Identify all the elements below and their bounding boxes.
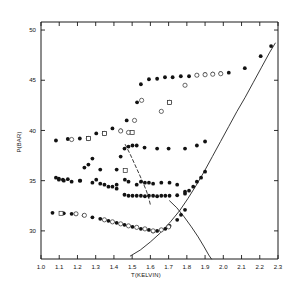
x-tick-label: 1.2 bbox=[73, 263, 82, 270]
x-tick-label: 1.8 bbox=[183, 263, 192, 270]
data-point-open bbox=[110, 220, 114, 224]
x-tick-label: 1.7 bbox=[164, 263, 173, 270]
data-point-filled bbox=[115, 187, 119, 191]
data-point-filled bbox=[135, 194, 139, 198]
x-tick-label: 2.0 bbox=[219, 263, 228, 270]
data-point-filled bbox=[259, 54, 263, 58]
data-point-filled bbox=[98, 182, 102, 186]
data-point-square bbox=[86, 136, 90, 140]
data-point-filled bbox=[135, 183, 139, 187]
data-point-filled bbox=[147, 181, 151, 185]
data-point-filled bbox=[82, 166, 86, 170]
data-point-filled bbox=[187, 189, 191, 193]
data-point-filled bbox=[168, 194, 172, 198]
data-point-filled bbox=[269, 44, 273, 48]
y-tick-label: 50 bbox=[29, 26, 36, 33]
x-tick-label: 1.9 bbox=[201, 263, 210, 270]
data-point-filled bbox=[183, 208, 187, 212]
data-point-filled bbox=[183, 192, 187, 196]
data-point-filled bbox=[203, 170, 207, 174]
data-point-filled bbox=[127, 145, 131, 149]
data-point-filled bbox=[131, 194, 135, 198]
data-point-filled bbox=[91, 157, 95, 161]
data-point-open bbox=[102, 218, 106, 222]
x-tick-label: 1.1 bbox=[55, 263, 64, 270]
data-point-filled bbox=[51, 211, 55, 215]
data-point-filled bbox=[159, 181, 163, 185]
data-point-square bbox=[59, 211, 63, 215]
data-point-filled bbox=[179, 213, 183, 217]
plot-figure: 1.01.11.21.31.41.51.61.71.81.92.02.12.22… bbox=[0, 0, 292, 290]
y-axis-title: P(BAR) bbox=[16, 131, 22, 152]
data-point-open bbox=[167, 225, 171, 229]
data-point-open bbox=[219, 72, 223, 76]
data-point-filled bbox=[94, 132, 98, 136]
data-point-filled bbox=[103, 183, 107, 187]
data-point-open bbox=[151, 229, 155, 233]
data-point-filled bbox=[94, 178, 98, 182]
data-point-filled bbox=[155, 77, 159, 81]
x-tick-label: 1.5 bbox=[128, 263, 137, 270]
data-point-filled bbox=[203, 140, 207, 144]
data-point-filled bbox=[139, 194, 143, 198]
data-point-filled bbox=[62, 179, 66, 183]
data-point-square bbox=[168, 100, 172, 104]
data-point-filled bbox=[66, 137, 70, 141]
data-point-filled bbox=[123, 147, 127, 151]
data-point-open bbox=[70, 137, 74, 141]
data-point-filled bbox=[199, 176, 203, 180]
data-point-filled bbox=[98, 217, 102, 221]
data-point-filled bbox=[123, 193, 127, 197]
data-point-filled bbox=[143, 181, 147, 185]
data-point-filled bbox=[175, 193, 179, 197]
data-point-filled bbox=[123, 223, 127, 227]
data-point-open bbox=[74, 212, 78, 216]
data-point-filled bbox=[195, 144, 199, 148]
data-point-filled bbox=[139, 227, 143, 231]
data-point-filled bbox=[147, 77, 151, 81]
data-point-filled bbox=[163, 194, 167, 198]
data-point-open bbox=[126, 224, 130, 228]
data-point-open bbox=[159, 109, 163, 113]
data-point-filled bbox=[147, 194, 151, 198]
data-point-filled bbox=[163, 75, 167, 79]
data-point-filled bbox=[78, 137, 82, 141]
x-tick-label: 2.1 bbox=[237, 263, 246, 270]
x-tick-label: 2.2 bbox=[256, 263, 265, 270]
figure-background bbox=[0, 0, 292, 290]
data-point-filled bbox=[125, 119, 129, 123]
data-point-open bbox=[135, 225, 139, 229]
data-point-filled bbox=[151, 194, 155, 198]
y-tick-label: 40 bbox=[29, 127, 36, 134]
data-point-filled bbox=[131, 144, 135, 148]
x-tick-label: 2.3 bbox=[274, 263, 283, 270]
data-point-filled bbox=[183, 147, 187, 151]
data-point-filled bbox=[91, 181, 95, 185]
data-point-open bbox=[82, 213, 86, 217]
data-point-filled bbox=[91, 215, 95, 219]
data-point-filled bbox=[127, 194, 131, 198]
data-point-filled bbox=[123, 178, 127, 182]
data-point-square bbox=[123, 169, 127, 173]
data-point-filled bbox=[107, 219, 111, 223]
data-point-filled bbox=[111, 185, 115, 189]
data-point-filled bbox=[171, 75, 175, 79]
data-point-filled bbox=[227, 71, 231, 75]
data-point-filled bbox=[191, 185, 195, 189]
data-point-filled bbox=[175, 218, 179, 222]
data-point-filled bbox=[155, 229, 159, 233]
data-point-filled bbox=[155, 194, 159, 198]
data-point-square bbox=[130, 130, 134, 134]
x-tick-label: 1.4 bbox=[110, 263, 119, 270]
data-point-filled bbox=[147, 228, 151, 232]
data-point-filled bbox=[168, 181, 172, 185]
x-axis-title: T(KELVIN) bbox=[131, 272, 161, 278]
data-point-filled bbox=[187, 74, 191, 78]
data-point-filled bbox=[115, 183, 119, 187]
data-point-filled bbox=[243, 66, 247, 70]
data-point-filled bbox=[70, 212, 74, 216]
data-point-filled bbox=[155, 147, 159, 151]
y-tick-label: 35 bbox=[29, 177, 36, 184]
data-point-filled bbox=[179, 74, 183, 78]
data-point-open bbox=[132, 118, 136, 122]
